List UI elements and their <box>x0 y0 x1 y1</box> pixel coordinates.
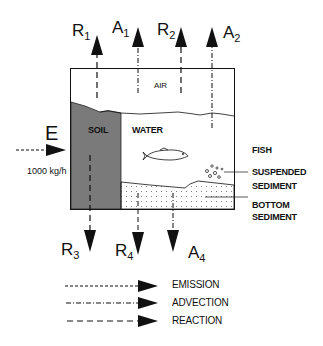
label-a1: A1 <box>112 19 129 39</box>
label-emission-rate: 1000 kg/h <box>27 167 67 176</box>
label-soil: SOIL <box>88 126 108 135</box>
label-emission-e: E <box>45 123 58 143</box>
legend-reaction-label: REACTION <box>172 316 222 326</box>
legend-reaction-line <box>67 315 158 327</box>
label-air: AIR <box>154 82 167 90</box>
legend-advection-line <box>66 297 158 309</box>
label-r3: R3 <box>61 241 79 261</box>
arrow-emission <box>16 144 66 156</box>
label-fish: FISH <box>252 146 272 155</box>
label-a4: A4 <box>188 244 205 264</box>
label-water: WATER <box>132 126 163 135</box>
legend-emission-label: EMISSION <box>172 280 219 290</box>
label-bottom-2: SEDIMENT <box>252 213 297 222</box>
label-a2: A2 <box>223 24 240 44</box>
label-bottom-1: BOTTOM <box>252 201 290 210</box>
label-r2: R2 <box>157 21 175 41</box>
legend-emission-line <box>65 280 158 292</box>
soil-compartment <box>71 102 121 209</box>
label-r4: R4 <box>115 242 133 262</box>
legend-advection-label: ADVECTION <box>172 298 229 308</box>
label-r1: R1 <box>72 22 90 42</box>
label-suspended-1: SUSPENDED <box>252 168 306 177</box>
label-suspended-2: SEDIMENT <box>252 182 297 191</box>
